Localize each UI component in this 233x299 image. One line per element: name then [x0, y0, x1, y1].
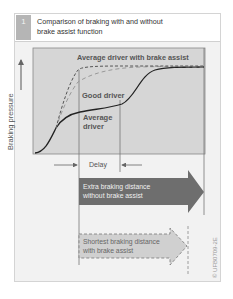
label-good-driver: Good driver	[82, 91, 125, 100]
label-avg-assist: Average driver with brake assist	[77, 53, 189, 62]
figure-code: © UFB0709-2E	[212, 237, 218, 278]
plot-area	[33, 48, 205, 154]
label-delay: Delay	[89, 161, 107, 168]
label-extra-distance: Extra braking distance without brake ass…	[83, 183, 150, 200]
label-shortest-distance: Shortest braking distance with brake ass…	[83, 238, 160, 255]
y-axis-label: Braking pressure	[6, 93, 15, 150]
label-average-driver: Average driver	[83, 113, 112, 131]
